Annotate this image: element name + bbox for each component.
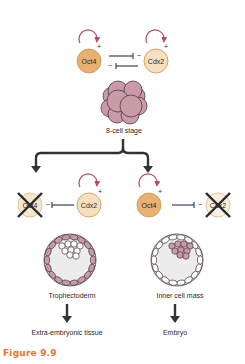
stage-label: 8-cell stage xyxy=(106,127,142,135)
plus-sign: + xyxy=(98,188,102,195)
arrow-down-icon xyxy=(143,166,153,173)
right-repressed-cdx2-node: Cdx2 xyxy=(206,193,230,217)
right-active-oct4-node: + Oct4 xyxy=(137,174,162,217)
self-activation-loop-icon xyxy=(79,30,97,43)
minus-sign: − xyxy=(198,201,202,208)
eight-cell-embryo-icon xyxy=(101,81,147,124)
mutual-inhibition: − − xyxy=(108,52,141,69)
oct4-cdx2-diagram: + Oct4 + Cdx2 − − 8-cell stage xyxy=(0,0,245,364)
tissue-label-trophectoderm: Trophectoderm xyxy=(48,292,95,300)
gene-label-oct4: Oct4 xyxy=(142,202,157,209)
plus-sign: + xyxy=(97,43,101,50)
gene-label-cdx2: Cdx2 xyxy=(81,202,97,209)
arrow-down-icon xyxy=(31,166,41,173)
inner-cell-mass-blastocyst-icon xyxy=(151,234,203,286)
fate-label-embryo: Embryo xyxy=(163,329,187,337)
gene-label-cdx2: Cdx2 xyxy=(148,58,164,65)
minus-sign: − xyxy=(108,62,112,69)
fate-label-extra-embryonic: Extra-embryonic tissue xyxy=(31,329,102,337)
tissue-label-inner-cell-mass: Inner cell mass xyxy=(156,292,204,299)
self-activation-loop-icon xyxy=(79,174,97,187)
plus-sign: + xyxy=(164,43,168,50)
minus-sign: − xyxy=(137,52,141,59)
self-activation-loop-icon xyxy=(139,174,157,187)
top-cdx2-node: + Cdx2 xyxy=(144,30,168,73)
arrow-down-icon xyxy=(62,316,72,323)
figure-caption: Figure 9.9 xyxy=(3,348,57,358)
minus-sign: − xyxy=(46,201,50,208)
trophectoderm-blastocyst-icon xyxy=(44,234,96,286)
arrow-down-icon xyxy=(170,316,180,323)
left-active-cdx2-node: + Cdx2 xyxy=(77,174,102,217)
left-repressed-oct4-node: Oct4 xyxy=(18,193,42,217)
gene-label-oct4: Oct4 xyxy=(82,58,97,65)
branch-arrows xyxy=(36,139,148,167)
self-activation-loop-icon xyxy=(146,30,164,43)
plus-sign: + xyxy=(158,188,162,195)
top-oct4-node: + Oct4 xyxy=(77,30,101,73)
